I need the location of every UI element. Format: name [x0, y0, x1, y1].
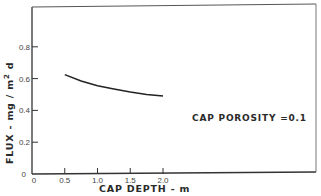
plot-frame: [32, 4, 316, 174]
y-tick-label: 0.2: [19, 138, 31, 147]
y-tick-label: 0.6: [19, 75, 31, 84]
cap-porosity-annotation: CAP POROSITY =0.1: [192, 113, 307, 123]
x-tick-label: 0.5: [59, 176, 71, 185]
y-tick-label: 0: [22, 170, 27, 179]
x-axis-title: CAP DEPTH - m: [99, 183, 190, 194]
chart: 00.20.40.60.8 00.51.01.52.0 CAP POROSITY…: [0, 0, 321, 196]
data-line-series: [65, 75, 163, 97]
y-tick-label: 0.4: [19, 106, 31, 115]
y-axis-ticks: 00.20.40.60.8: [19, 43, 38, 179]
x-tick-label: 0: [32, 176, 37, 185]
y-axis-title: FLUX - mg / m2 d: [3, 62, 15, 164]
y-tick-label: 0.8: [19, 43, 31, 52]
